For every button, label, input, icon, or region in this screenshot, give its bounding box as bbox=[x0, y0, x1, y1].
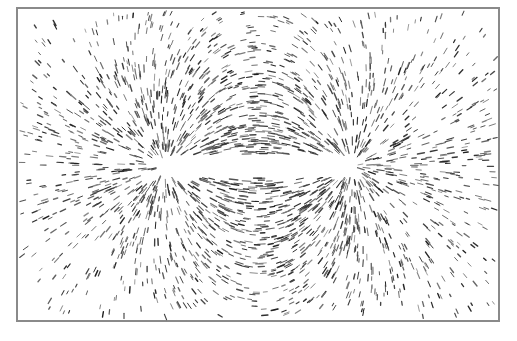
iron-filings-field bbox=[0, 0, 517, 341]
bar-magnet bbox=[160, 156, 357, 177]
